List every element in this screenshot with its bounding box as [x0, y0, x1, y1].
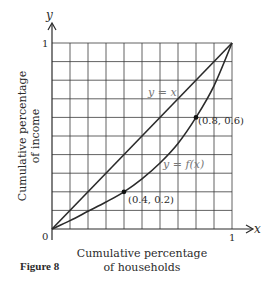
point1-label: (0.4, 0.2) — [128, 194, 174, 205]
x-label-line2: of households — [103, 261, 180, 274]
x-tick-1: 1 — [229, 232, 235, 243]
x-axis-letter: x — [254, 222, 261, 236]
y-axis — [48, 23, 56, 240]
line-label: y = x — [147, 86, 177, 99]
point-0.4-0.2 — [122, 189, 127, 194]
figure-caption: Figure 8 — [20, 260, 60, 272]
y-axis-letter: y — [45, 8, 53, 22]
y-axis-label: Cumulative percentage of income — [16, 71, 42, 201]
x-axis — [52, 225, 253, 233]
origin-label: 0 — [42, 231, 48, 242]
point2-label: (0.8, 0.6) — [198, 115, 244, 126]
lorenz-curve-figure: y x 1 0 1 y = x y = f(x) (0.8, 0.6) (0.4… — [0, 0, 274, 289]
curve-label: y = f(x) — [162, 158, 204, 171]
x-label-line1: Cumulative percentage — [77, 247, 207, 260]
y-label-line2: of income — [29, 109, 42, 164]
y-label-line1: Cumulative percentage — [16, 71, 29, 201]
y-tick-1: 1 — [42, 38, 48, 49]
